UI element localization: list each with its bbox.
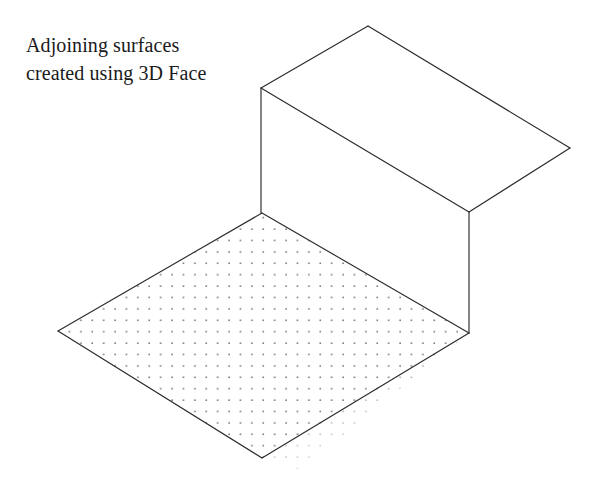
figure-annotation-label: Adjoining surfaces created using 3D Face: [26, 31, 241, 87]
drawing-canvas: Adjoining surfaces created using 3D Face: [0, 0, 605, 497]
